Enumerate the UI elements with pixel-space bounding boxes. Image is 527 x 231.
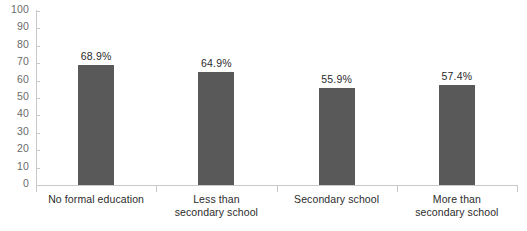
y-axis-tick-label: 10 xyxy=(17,161,29,172)
y-axis-tick-label: 90 xyxy=(17,21,29,32)
bar[interactable] xyxy=(198,72,234,185)
category-label-line: No formal education xyxy=(48,193,144,205)
y-axis-tick-label: 60 xyxy=(17,74,29,85)
category-label-line: secondary school xyxy=(397,206,517,219)
x-axis-category-label: No formal education xyxy=(36,193,156,206)
y-axis-tick-label: 100 xyxy=(11,4,29,15)
x-axis-separator-tick xyxy=(36,185,37,192)
x-axis-category-label: Secondary school xyxy=(277,193,397,206)
x-axis-separator-tick xyxy=(517,185,518,192)
y-axis-tick-label: 30 xyxy=(17,126,29,137)
x-axis-separator-tick xyxy=(156,185,157,192)
category-label-line: More than xyxy=(433,193,481,205)
x-axis-separator-tick xyxy=(397,185,398,192)
y-axis-tick-label: 40 xyxy=(17,108,29,119)
bar[interactable] xyxy=(439,85,475,185)
x-axis-category-label: Less thansecondary school xyxy=(156,193,276,219)
y-axis-tick-label: 70 xyxy=(17,56,29,67)
bar[interactable] xyxy=(319,88,355,185)
category-label-line: secondary school xyxy=(156,206,276,219)
bar-value-label: 64.9% xyxy=(176,57,256,69)
bar-value-label: 55.9% xyxy=(297,73,377,85)
category-label-line: Less than xyxy=(193,193,239,205)
x-axis-separator-tick xyxy=(277,185,278,192)
y-axis-tick-label: 0 xyxy=(23,178,29,189)
category-label-line: Secondary school xyxy=(294,193,379,205)
bar-value-label: 57.4% xyxy=(417,70,497,82)
bar-chart: 1009080706050403020100 68.9%64.9%55.9%57… xyxy=(0,0,527,231)
y-axis-tick-label: 80 xyxy=(17,39,29,50)
bar-value-label: 68.9% xyxy=(56,50,136,62)
y-axis-tick-label: 20 xyxy=(17,143,29,154)
bar[interactable] xyxy=(78,65,114,185)
y-axis-tick-label: 50 xyxy=(17,91,29,102)
bars-container xyxy=(36,11,517,185)
x-axis-category-label: More thansecondary school xyxy=(397,193,517,219)
